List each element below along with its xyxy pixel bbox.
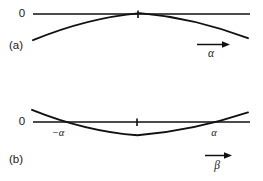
panel-b-zero-label: 0 — [19, 115, 25, 127]
figure-container: 0 (a) α 0 −α α (b) β — [0, 0, 263, 181]
panel-b-right-root-label: α — [211, 127, 217, 138]
panel-b-arrow-label: β — [213, 159, 220, 172]
panel-a: 0 (a) α — [9, 7, 250, 60]
panel-a-parabola — [33, 13, 248, 40]
panel-b-tag-label: (b) — [9, 153, 23, 165]
panel-b: 0 −α α (b) β — [9, 110, 250, 172]
panel-a-tag-label: (a) — [9, 39, 23, 51]
panel-b-arrow-head — [224, 152, 232, 159]
panel-a-zero-label: 0 — [19, 7, 25, 19]
panel-b-axis-arrow — [205, 152, 232, 159]
parabola-figure-svg: 0 (a) α 0 −α α (b) β — [0, 0, 263, 181]
panel-a-arrow-head — [222, 41, 230, 48]
panel-a-arrow-label: α — [208, 47, 215, 59]
panel-b-left-root-label: −α — [52, 127, 65, 138]
